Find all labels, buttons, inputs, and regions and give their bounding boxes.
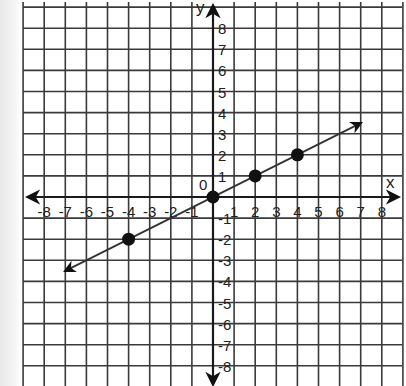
y-tick-label: -2 [218, 231, 231, 248]
y-tick-label: 4 [218, 105, 226, 122]
y-tick-label: -4 [218, 273, 231, 290]
x-tick-label: -6 [80, 203, 93, 220]
x-tick-label: -5 [101, 203, 114, 220]
y-tick-label: 8 [218, 20, 226, 37]
y-tick-label: 7 [218, 41, 226, 58]
origin-label: 0 [199, 176, 207, 193]
y-tick-label: 2 [218, 147, 226, 164]
data-point [207, 191, 220, 204]
data-point [122, 233, 135, 246]
y-axis-label: y [196, 0, 205, 18]
data-point [291, 148, 304, 161]
y-tick-label: -5 [218, 295, 231, 312]
x-tick-label: 7 [357, 203, 365, 220]
x-tick-label: 2 [251, 203, 259, 220]
y-tick-label: -6 [218, 316, 231, 333]
y-tick-label: -7 [218, 337, 231, 354]
data-point [249, 169, 262, 182]
coordinate-plane: -8-7-6-5-4-3-2-11234567887654321-1-2-3-4… [0, 0, 406, 386]
y-tick-label: -8 [218, 358, 231, 375]
y-tick-label: -3 [218, 252, 231, 269]
y-tick-label: 3 [218, 126, 226, 143]
y-tick-label: -1 [218, 210, 231, 227]
y-tick-label: 6 [218, 62, 226, 79]
graph-canvas: -8-7-6-5-4-3-2-11234567887654321-1-2-3-4… [0, 0, 406, 386]
x-tick-label: 8 [378, 203, 386, 220]
x-tick-label: -3 [143, 203, 156, 220]
x-tick-label: -7 [59, 203, 72, 220]
x-tick-label: 6 [335, 203, 343, 220]
y-tick-label: 5 [218, 84, 226, 101]
x-axis-label: x [386, 173, 395, 193]
x-tick-label: 3 [272, 203, 280, 220]
x-tick-label: 4 [293, 203, 301, 220]
x-tick-label: -4 [122, 203, 135, 220]
x-tick-label: 5 [314, 203, 322, 220]
y-tick-label: 1 [218, 168, 226, 185]
x-tick-label: -8 [38, 203, 51, 220]
